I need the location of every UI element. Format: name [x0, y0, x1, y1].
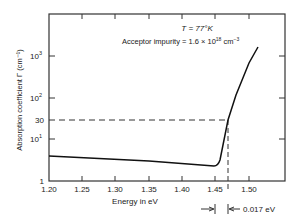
- x-tick-labels: 1.20 1.25 1.30 1.35 1.40 1.45 1.50: [41, 185, 257, 194]
- delta-marker: [201, 204, 240, 214]
- svg-text:101: 101: [30, 133, 42, 144]
- y-axis-label: Absorption coefficient Γ (cm⁻¹): [15, 49, 24, 151]
- svg-text:1.45: 1.45: [207, 185, 223, 194]
- svg-text:103: 103: [30, 50, 42, 61]
- svg-text:1.25: 1.25: [74, 185, 90, 194]
- x-ticks-top: [82, 14, 249, 19]
- y-ticks-right: [279, 56, 285, 139]
- svg-text:102: 102: [30, 92, 42, 103]
- svg-text:1.35: 1.35: [141, 185, 157, 194]
- y-ticks-left: [49, 56, 55, 139]
- svg-text:1.30: 1.30: [107, 185, 123, 194]
- svg-text:1: 1: [40, 177, 45, 186]
- absorption-chart: 1.20 1.25 1.30 1.35 1.40 1.45 1.50 1 101…: [0, 0, 298, 218]
- x-axis-label: Energy in eV: [112, 197, 158, 206]
- svg-text:1.40: 1.40: [174, 185, 190, 194]
- y-tick-labels: 1 101 30 102 103: [30, 50, 45, 186]
- delta-energy-label: 0.017 eV: [243, 205, 276, 214]
- x-ticks-bottom: [82, 176, 249, 181]
- svg-text:1.20: 1.20: [41, 185, 57, 194]
- svg-text:30: 30: [35, 116, 44, 125]
- temperature-annotation: T = 77°K: [181, 24, 213, 33]
- acceptor-annotation: Acceptor impurity = 1.6 × 1018 cm−3: [122, 36, 239, 46]
- absorption-curve: [49, 47, 258, 166]
- svg-text:1.50: 1.50: [241, 185, 257, 194]
